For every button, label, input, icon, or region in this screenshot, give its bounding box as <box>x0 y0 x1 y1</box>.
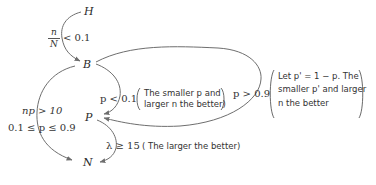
fraction-denominator: N <box>48 39 60 49</box>
bracket-left-large <box>270 70 274 118</box>
condition-h-to-b: < 0.1 <box>63 33 90 43</box>
edge-b-to-p-small <box>96 64 120 114</box>
condition-p-to-n: λ ≥ 15 <box>106 141 140 151</box>
node-b: B <box>83 59 91 70</box>
distribution-approximation-diagram: H B P N n N < 0.1 np > 10 0.1 ≤ p ≤ 0.9 … <box>0 0 376 185</box>
note-b-to-p-small-line2: larger n the better) <box>144 99 226 110</box>
note-b-to-p-large-line2: smaller p' and larger <box>278 84 366 95</box>
edge-b-to-p-large <box>96 47 261 127</box>
note-b-to-p-small-line1: The smaller p and <box>144 88 221 99</box>
condition-b-to-p-large: p > 0.9 <box>233 89 270 99</box>
node-h: H <box>84 6 94 17</box>
condition-b-to-n-line1: np > 10 <box>22 106 62 116</box>
node-n: N <box>83 157 93 168</box>
note-b-to-p-large-line3: n the better <box>278 98 329 109</box>
fraction-n-over-N: n N <box>48 28 60 49</box>
condition-b-to-n-line2: 0.1 ≤ p ≤ 0.9 <box>8 123 76 133</box>
fraction-numerator: n <box>48 28 60 39</box>
note-p-to-n: ( The larger the better) <box>142 141 240 152</box>
note-b-to-p-large-line1: Let p' = 1 − p. The <box>278 71 359 82</box>
condition-b-to-p-small: p < 0.1 <box>100 94 137 104</box>
node-p: P <box>85 112 92 123</box>
bracket-left-small <box>137 88 140 110</box>
